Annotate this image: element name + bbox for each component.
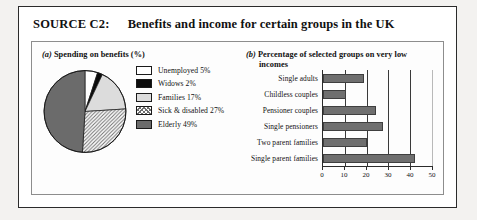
source-header: SOURCE C2: Benefits and income for certa… — [33, 17, 395, 32]
pie-slice-sick-disabled — [82, 109, 126, 153]
legend-swatch-elderly — [136, 120, 152, 129]
chart-b-caption: (b) Percentage of selected groups on ver… — [246, 50, 436, 71]
legend-item-families: Families 17% — [136, 93, 224, 102]
bar-chart-tick-label-40: 40 — [406, 171, 413, 179]
chart-a-caption: (a) Spending on benefits (%) — [42, 50, 145, 60]
source-box: SOURCE C2: Benefits and income for certa… — [18, 6, 457, 208]
bar-chart-tick-20 — [366, 166, 367, 170]
bar-pensioner-couples — [323, 106, 376, 115]
pie-chart — [40, 64, 130, 159]
bar-chart-tick-50 — [432, 166, 433, 170]
bar-chart-bar-slot — [323, 102, 432, 118]
chart-a-container: (a) Spending on benefits (%) Unemployed … — [32, 42, 240, 194]
bar-chart-tick-30 — [388, 166, 389, 170]
bar-chart-category-label: Pensioner couples — [244, 102, 322, 118]
bar-chart-bar-slot — [323, 70, 432, 86]
bar-chart-category-labels: Single adultsChildless couplesPensioner … — [244, 70, 322, 166]
bar-chart-category-label: Childless couples — [244, 86, 322, 102]
bar-chart-bar-slot — [323, 86, 432, 102]
bar-chart-category-label: Single pensioners — [244, 118, 322, 134]
legend-item-elderly: Elderly 49% — [136, 120, 224, 129]
pie-slice-elderly — [44, 71, 85, 153]
bar-chart-plot — [322, 70, 432, 166]
bar-single-parent-families — [323, 154, 415, 163]
source-label: SOURCE C2: — [33, 17, 110, 32]
chart-b-caption-line1: Percentage of selected groups on very lo… — [258, 50, 407, 59]
bar-two-parent-families — [323, 138, 367, 147]
legend-swatch-unemployed — [136, 66, 152, 75]
legend-swatch-families — [136, 93, 152, 102]
bar-chart-category-label: Single adults — [244, 70, 322, 86]
bar-chart-tick-label-0: 0 — [320, 171, 324, 179]
bar-single-pensioners — [323, 122, 383, 131]
bar-chart-category-label: Single parent families — [244, 150, 322, 166]
bar-chart-bar-slot — [323, 118, 432, 134]
pie-chart-svg — [40, 64, 130, 159]
legend-swatch-widows — [136, 79, 152, 88]
legend-item-sick-disabled: Sick & disabled 27% — [136, 106, 224, 115]
bar-chart-tick-0 — [322, 166, 323, 170]
source-title: Benefits and income for certain groups i… — [128, 17, 395, 32]
legend-label-elderly: Elderly 49% — [158, 120, 197, 129]
bar-single-adults — [323, 74, 364, 83]
bar-chart-tick-label-50: 50 — [428, 171, 435, 179]
legend-label-widows: Widows 2% — [158, 79, 196, 88]
legend-item-widows: Widows 2% — [136, 79, 224, 88]
bar-chart-tick-40 — [410, 166, 411, 170]
legend-label-unemployed: Unemployed 5% — [158, 66, 211, 75]
bar-chart-x-axis — [322, 166, 432, 167]
bar-chart: Single adultsChildless couplesPensioner … — [244, 70, 442, 188]
bar-chart-tick-label-10: 10 — [340, 171, 347, 179]
bar-childless-couples — [323, 90, 346, 99]
chart-b-marker: (b) — [246, 50, 256, 59]
chart-a-marker: (a) — [42, 50, 52, 59]
chart-a-caption-text: Spending on benefits (%) — [54, 50, 145, 59]
bar-chart-bar-slot — [323, 150, 432, 166]
legend-swatch-sick-disabled — [136, 106, 152, 115]
legend-label-families: Families 17% — [158, 93, 201, 102]
bar-chart-tick-10 — [344, 166, 345, 170]
legend-item-unemployed: Unemployed 5% — [136, 66, 224, 75]
legend-label-sick-disabled: Sick & disabled 27% — [158, 106, 224, 115]
bar-chart-tick-label-30: 30 — [384, 171, 391, 179]
chart-b-container: (b) Percentage of selected groups on ver… — [240, 42, 445, 194]
charts-panel: (a) Spending on benefits (%) Unemployed … — [31, 41, 444, 195]
bar-chart-tick-label-20: 20 — [362, 171, 369, 179]
bar-chart-gridline-50 — [432, 70, 433, 166]
bar-chart-bar-slot — [323, 134, 432, 150]
bar-chart-category-label: Two parent families — [244, 134, 322, 150]
bar-chart-bars — [323, 70, 432, 166]
pie-legend: Unemployed 5% Widows 2% Families 17% Sic… — [136, 66, 224, 129]
